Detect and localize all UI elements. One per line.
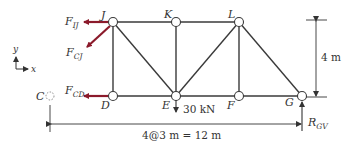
truss-diagram: J K L D E F G C FIJ FCJ FCD 30 kN RGV 4 … xyxy=(0,0,346,147)
node-E xyxy=(172,92,181,101)
ghost-node-C xyxy=(46,92,54,100)
span-label: 4@3 m = 12 m xyxy=(142,129,221,141)
label-FCJ: FCJ xyxy=(65,46,83,61)
node-G xyxy=(298,92,307,101)
member-EL xyxy=(176,22,239,96)
member-JE xyxy=(113,22,176,96)
label-K: K xyxy=(163,8,173,21)
node-L xyxy=(235,18,244,27)
truss-members xyxy=(113,22,302,96)
label-F: F xyxy=(226,99,235,112)
height-label: 4 m xyxy=(321,51,341,63)
force-arrow-FCJ xyxy=(87,26,110,47)
node-J xyxy=(109,18,118,27)
label-RGV: RGV xyxy=(307,116,329,131)
label-J: J xyxy=(99,9,106,22)
axis-y-label: y xyxy=(12,44,19,54)
label-L: L xyxy=(227,8,235,21)
label-FIJ: FIJ xyxy=(64,15,80,30)
label-FCD: FCD xyxy=(64,84,84,99)
node-D xyxy=(109,92,118,101)
node-F xyxy=(235,92,244,101)
node-K xyxy=(172,18,181,27)
label-G: G xyxy=(285,96,294,109)
label-E: E xyxy=(161,99,170,112)
member-LG xyxy=(239,22,302,96)
label-D: D xyxy=(100,99,110,112)
load-label: 30 kN xyxy=(183,103,215,115)
cut-forces xyxy=(84,22,110,96)
label-C: C xyxy=(36,90,45,103)
axes-indicator xyxy=(16,57,28,69)
axis-x-label: x xyxy=(31,64,36,74)
